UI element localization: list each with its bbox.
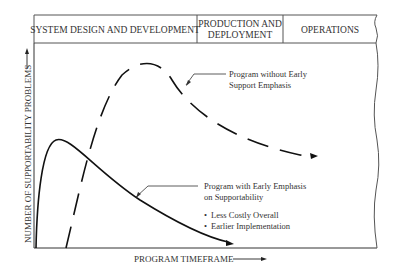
bullet-dot-2: • — [204, 221, 207, 231]
label-without-line1: Program without Early — [229, 69, 308, 79]
leader-with — [136, 186, 198, 197]
supportability-diagram: SYSTEM DESIGN AND DEVELOPMENT PRODUCTION… — [0, 0, 395, 272]
phase-label-operations: OPERATIONS — [301, 25, 359, 35]
y-axis-label: NUMBER OF SUPPORTABILITY PROBLEMS — [23, 48, 33, 243]
bullet-earlier-impl: Earlier Implementation — [211, 221, 291, 231]
label-with-line2: on Supportability — [204, 192, 264, 202]
y-axis-label-text: NUMBER OF SUPPORTABILITY PROBLEMS — [23, 65, 33, 243]
phase-label-production-line2: DEPLOYMENT — [208, 30, 273, 40]
phase-label-production-line1: PRODUCTION AND — [198, 19, 282, 29]
bullet-less-costly: Less Costly Overall — [211, 210, 279, 220]
phase-label-design: SYSTEM DESIGN AND DEVELOPMENT — [30, 25, 200, 35]
phase-header: SYSTEM DESIGN AND DEVELOPMENT PRODUCTION… — [30, 15, 377, 43]
curve-without-arrow-icon — [310, 153, 318, 159]
x-axis-label: PROGRAM TIMEFRAME — [134, 254, 267, 264]
curve-with-arrow-icon — [226, 240, 234, 246]
bullet-dot-1: • — [204, 210, 207, 220]
y-axis-arrow-icon — [25, 48, 29, 54]
label-without-line2: Support Emphasis — [229, 80, 291, 90]
leader-without — [186, 74, 226, 85]
x-axis-label-text: PROGRAM TIMEFRAME — [134, 254, 234, 264]
label-with-line1: Program with Early Emphasis — [204, 181, 306, 191]
curve-with-early-emphasis: Program with Early Emphasis on Supportab… — [36, 140, 306, 248]
x-axis-arrow-icon — [261, 257, 267, 261]
